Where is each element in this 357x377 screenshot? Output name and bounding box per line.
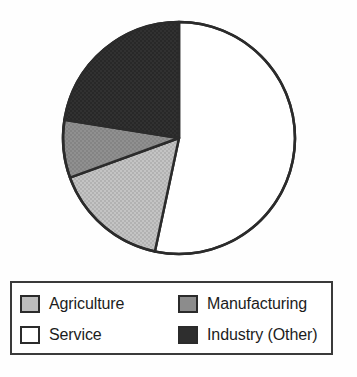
chart-legend: Agriculture Manufacturing Service Indust… — [10, 281, 333, 355]
legend-swatch-industry-other — [178, 326, 198, 344]
pie-chart-area — [0, 0, 357, 270]
legend-label-service: Service — [49, 326, 102, 344]
legend-row: Agriculture Manufacturing — [20, 288, 325, 319]
legend-label-agriculture: Agriculture — [49, 295, 124, 313]
legend-item-agriculture[interactable]: Agriculture — [20, 295, 178, 313]
legend-swatch-agriculture — [20, 295, 40, 313]
pie-chart-page: Agriculture Manufacturing Service Indust… — [0, 0, 357, 377]
legend-swatch-manufacturing — [178, 295, 198, 313]
pie-chart-svg — [0, 0, 357, 270]
legend-item-manufacturing[interactable]: Manufacturing — [178, 295, 325, 313]
legend-label-manufacturing: Manufacturing — [207, 295, 307, 313]
legend-label-industry-other: Industry (Other) — [207, 326, 317, 344]
legend-item-industry-other[interactable]: Industry (Other) — [178, 326, 325, 344]
pie-slice-industry-other[interactable] — [64, 22, 179, 138]
legend-row: Service Industry (Other) — [20, 319, 325, 350]
legend-item-service[interactable]: Service — [20, 326, 178, 344]
legend-swatch-service — [20, 326, 40, 344]
